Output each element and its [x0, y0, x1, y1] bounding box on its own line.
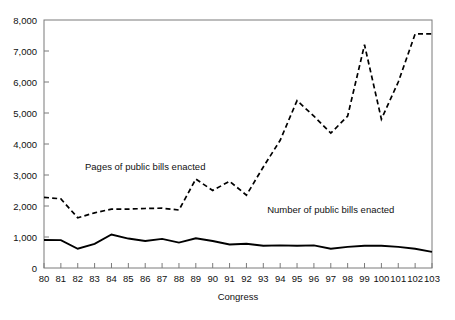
y-axis-tick-marks	[44, 51, 49, 237]
x-tick-label: 100	[373, 273, 389, 284]
series-annotation-number: Number of public bills enacted	[267, 204, 394, 215]
x-tick-label: 91	[224, 273, 235, 284]
y-tick-label: 8,000	[13, 15, 37, 26]
x-tick-label: 96	[309, 273, 320, 284]
x-tick-label: 89	[191, 273, 202, 284]
x-tick-label: 83	[89, 273, 100, 284]
x-axis-tick-labels: 8081828384858687888990919293949596979899…	[39, 273, 440, 284]
x-tick-label: 101	[390, 273, 406, 284]
x-tick-label: 94	[275, 273, 286, 284]
y-tick-label: 6,000	[13, 77, 37, 88]
x-tick-label: 80	[39, 273, 50, 284]
x-tick-label: 81	[56, 273, 67, 284]
series-line-pages-of-public-bills-enacted	[44, 34, 432, 218]
line-chart: 01,0002,0003,0004,0005,0006,0007,0008,00…	[0, 0, 455, 320]
x-tick-label: 99	[359, 273, 370, 284]
x-tick-label: 90	[207, 273, 218, 284]
x-axis-title: Congress	[218, 291, 259, 302]
x-tick-label: 103	[424, 273, 440, 284]
x-tick-label: 93	[258, 273, 269, 284]
x-tick-label: 86	[140, 273, 151, 284]
y-tick-label: 4,000	[13, 139, 37, 150]
plot-area-frame	[44, 20, 432, 268]
series-annotation-pages: Pages of public bills enacted	[85, 161, 205, 172]
y-tick-label: 7,000	[13, 46, 37, 57]
y-tick-label: 0	[32, 263, 37, 274]
y-tick-label: 5,000	[13, 108, 37, 119]
y-tick-label: 1,000	[13, 232, 37, 243]
y-axis-tick-labels: 01,0002,0003,0004,0005,0006,0007,0008,00…	[13, 15, 37, 274]
x-axis-tick-marks	[44, 263, 432, 268]
x-tick-label: 84	[106, 273, 117, 284]
x-tick-label: 98	[342, 273, 353, 284]
x-tick-label: 87	[157, 273, 168, 284]
x-tick-label: 95	[292, 273, 303, 284]
x-tick-label: 82	[72, 273, 83, 284]
x-tick-label: 88	[174, 273, 185, 284]
y-tick-label: 3,000	[13, 170, 37, 181]
y-tick-label: 2,000	[13, 201, 37, 212]
x-tick-label: 97	[325, 273, 336, 284]
x-tick-label: 102	[407, 273, 423, 284]
chart-figure: 01,0002,0003,0004,0005,0006,0007,0008,00…	[0, 0, 455, 320]
x-tick-label: 85	[123, 273, 134, 284]
series-line-number-of-public-bills-enacted	[44, 235, 432, 252]
x-tick-label: 92	[241, 273, 252, 284]
